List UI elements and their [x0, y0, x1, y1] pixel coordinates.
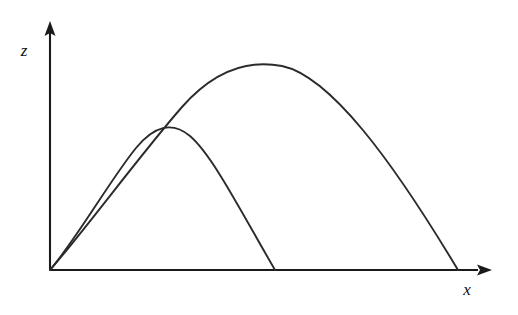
trajectory-plot: z x: [0, 0, 518, 315]
x-axis-label: x: [462, 280, 471, 299]
trajectory-curve-short: [50, 127, 275, 270]
trajectory-curve-long: [50, 64, 458, 270]
z-axis-label: z: [20, 41, 28, 60]
x-axis-arrowhead-icon: [477, 265, 492, 276]
figure-container: z x: [0, 0, 518, 315]
